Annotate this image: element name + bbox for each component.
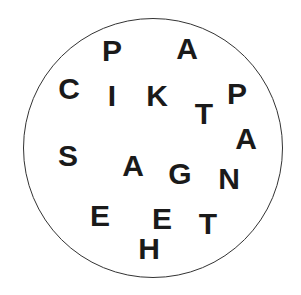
letter-i-3: I <box>108 81 116 111</box>
letter-n-11: N <box>218 164 240 194</box>
letter-circle-scene: PACIKPTASAGNEETH <box>0 0 301 295</box>
letter-g-10: G <box>168 159 191 189</box>
letter-a-9: A <box>122 151 144 181</box>
letter-s-8: S <box>58 141 78 171</box>
letter-k-4: K <box>146 81 168 111</box>
letter-a-1: A <box>176 34 198 64</box>
letter-p-0: P <box>102 36 122 66</box>
letter-p-5: P <box>227 79 247 109</box>
letter-e-12: E <box>90 201 110 231</box>
letter-t-6: T <box>195 99 213 129</box>
letter-a-7: A <box>235 124 257 154</box>
letter-t-14: T <box>199 209 217 239</box>
letter-e-13: E <box>152 204 172 234</box>
letter-c-2: C <box>58 74 80 104</box>
letter-h-15: H <box>138 234 160 264</box>
